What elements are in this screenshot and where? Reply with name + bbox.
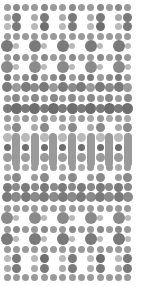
pattern-dot	[13, 74, 20, 81]
pattern-dot	[114, 82, 124, 92]
pattern-dot	[106, 205, 113, 212]
pattern-dot	[59, 205, 66, 212]
pattern-dot	[41, 43, 47, 49]
pattern-dot	[50, 74, 57, 81]
pattern-dot	[124, 246, 131, 253]
pattern-dot	[105, 183, 113, 191]
pattern-dot	[96, 153, 105, 162]
pattern-dot	[59, 274, 66, 281]
pattern-dot	[40, 153, 49, 162]
pattern-dot	[12, 123, 21, 132]
pattern-dot	[3, 183, 12, 192]
pattern-dot	[97, 43, 103, 49]
pattern-dot	[124, 54, 131, 61]
pattern-dot	[124, 226, 131, 233]
pattern-dot	[22, 144, 29, 151]
pattern-dot	[124, 74, 131, 81]
pattern-dot	[96, 22, 105, 31]
pattern-dot	[97, 144, 104, 151]
pattern-dot	[85, 61, 97, 73]
pattern-dot	[78, 205, 85, 212]
pattern-dot	[40, 254, 49, 263]
pattern-dot	[40, 123, 49, 132]
pattern-dot	[106, 4, 113, 11]
pattern-dot	[78, 4, 85, 11]
pattern-dot	[41, 95, 48, 102]
pattern-dot	[58, 153, 67, 162]
pattern-capsule	[124, 133, 132, 167]
pattern-dot	[31, 226, 38, 233]
pattern-dot	[78, 144, 85, 151]
pattern-dot	[69, 226, 76, 233]
pattern-dot	[78, 95, 85, 102]
pattern-dot	[115, 205, 122, 212]
pattern-dot	[13, 226, 20, 233]
pattern-dot	[77, 183, 86, 192]
pattern-dot	[85, 212, 97, 224]
pattern-dot	[31, 23, 38, 30]
pattern-dot	[69, 215, 75, 221]
pattern-dot	[114, 153, 123, 162]
pattern-dot	[12, 254, 21, 263]
pattern-dot	[13, 246, 20, 253]
pattern-dot	[29, 212, 41, 224]
pattern-dot	[13, 4, 20, 11]
pattern-dot	[59, 14, 66, 21]
pattern-dot	[124, 274, 131, 281]
pattern-dot	[68, 13, 77, 22]
pattern-dot	[40, 133, 49, 142]
pattern-dot	[21, 133, 30, 142]
pattern-dot	[4, 124, 11, 131]
pattern-dot	[50, 94, 58, 102]
pattern-dot	[4, 4, 11, 11]
pattern-dot	[40, 264, 49, 273]
pattern-dot	[1, 212, 13, 224]
pattern-dot	[41, 246, 48, 253]
pattern-capsule	[49, 133, 57, 167]
pattern-dot	[97, 164, 104, 171]
pattern-dot	[69, 4, 76, 11]
pattern-dot	[4, 115, 11, 122]
pattern-dot	[115, 124, 122, 131]
pattern-dot	[4, 95, 11, 102]
pattern-dot	[123, 123, 132, 132]
pattern-dot	[115, 274, 122, 281]
pattern-dot	[12, 173, 21, 182]
pattern-dot	[97, 205, 104, 212]
pattern-dot	[106, 115, 113, 122]
pattern-dot	[50, 54, 57, 61]
pattern-dot	[22, 246, 29, 253]
pattern-dot	[4, 144, 11, 151]
pattern-dot	[12, 22, 21, 31]
pattern-dot	[41, 205, 48, 212]
pattern-dot	[21, 153, 30, 162]
pattern-dot	[22, 4, 29, 11]
pattern-dot	[4, 274, 11, 281]
pattern-dot	[41, 144, 48, 151]
pattern-dot	[87, 4, 94, 11]
pattern-dot	[87, 124, 94, 131]
pattern-dot	[57, 233, 69, 245]
pattern-dot	[68, 264, 77, 273]
pattern-dot	[41, 64, 47, 70]
pattern-dot	[59, 246, 66, 253]
pattern-dot	[123, 13, 132, 22]
pattern-capsule	[31, 133, 39, 167]
pattern-dot	[87, 183, 95, 191]
pattern-dot	[59, 144, 66, 151]
pattern-dot	[57, 40, 69, 52]
pattern-dot	[69, 274, 76, 281]
pattern-dot	[50, 33, 57, 40]
pattern-dot	[106, 226, 113, 233]
pattern-dot	[13, 274, 20, 281]
pattern-dot	[31, 183, 39, 191]
pattern-dot	[31, 74, 38, 81]
pattern-dot	[59, 33, 66, 40]
pattern-dot	[96, 254, 105, 263]
pattern-dot	[85, 233, 97, 245]
pattern-dot	[59, 95, 66, 102]
pattern-dot	[50, 183, 58, 191]
pattern-dot	[115, 33, 122, 40]
pattern-dot	[59, 54, 66, 61]
pattern-dot	[68, 22, 77, 31]
